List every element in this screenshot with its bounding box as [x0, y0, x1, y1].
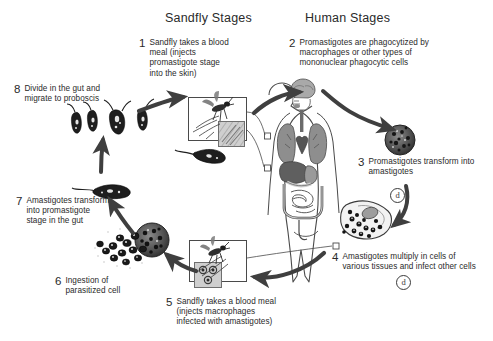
step-1-number: 1 — [139, 38, 145, 49]
cycle-arrows — [101, 91, 407, 278]
promastigote-under-panel — [175, 147, 226, 166]
arrow-2-to-3 — [323, 91, 392, 129]
step-1-text: Sandfly takes a blood meal (injects prom… — [149, 38, 234, 79]
step-3-number: 3 — [358, 157, 364, 168]
panel-connector-lines — [247, 112, 332, 258]
arrow-8-to-1 — [139, 97, 183, 111]
step-7: 7 Amastigotes transform into promastigot… — [16, 196, 112, 227]
arrow-4-to-5 — [255, 253, 324, 278]
step-7-text: Amastigotes transform into promastigote … — [26, 196, 112, 227]
step-6-number: 6 — [55, 276, 61, 287]
step-8: 8 Divide in the gut and migrate to probo… — [14, 84, 128, 104]
arrow-6-to-7 — [110, 200, 133, 233]
step-2: 2 Promastigotes are phagocytized by macr… — [289, 38, 431, 69]
released-amastigotes — [97, 233, 147, 265]
promastigote-microscopy-inset — [218, 121, 245, 147]
step-8-text: Divide in the gut and migrate to probosc… — [24, 84, 128, 104]
step-3-text: Promastigotes transform into amastigotes — [368, 157, 486, 177]
human-body-illustration — [265, 79, 340, 282]
arrow-1-to-2 — [254, 92, 299, 113]
amastigote-microscopy-inset — [194, 262, 222, 288]
step-3: 3 Promastigotes transform into amastigot… — [358, 157, 486, 177]
step-2-text: Promastigotes are phagocytized by macrop… — [299, 38, 431, 69]
step-8-number: 8 — [14, 84, 20, 95]
step-7-number: 7 — [16, 196, 22, 207]
step-5: 5 Sandfly takes a blood meal (injects ma… — [166, 297, 284, 328]
step-6-text: Ingestion of parasitized cell — [65, 276, 137, 296]
header-sandfly-stages: Sandfly Stages — [165, 11, 252, 25]
step-6: 6 Ingestion of parasitized cell — [55, 276, 137, 296]
amastigote-filled-tissue-cell — [341, 201, 392, 239]
arrow-7-to-8 — [101, 140, 103, 172]
leishmaniasis-lifecycle-diagram: Sandfly Stages Human Stages 1 Sandfly ta… — [0, 0, 493, 341]
header-human-stages: Human Stages — [305, 11, 390, 25]
step-4-number: 4 — [332, 252, 338, 263]
step-1: 1 Sandfly takes a blood meal (injects pr… — [139, 38, 234, 79]
step-5-number: 5 — [166, 297, 172, 308]
step-3-d-marker: d — [390, 188, 405, 203]
step-5-text: Sandfly takes a blood meal (injects macr… — [176, 297, 284, 328]
step-4-d-marker: d — [396, 275, 411, 290]
step-4-text: Amastigotes multiply in cells of various… — [342, 252, 478, 272]
step-2-number: 2 — [289, 38, 295, 49]
infected-macrophage-cell — [385, 125, 415, 155]
parasitized-cell-cluster — [94, 223, 169, 269]
step-4: 4 Amastigotes multiply in cells of vario… — [332, 252, 478, 272]
